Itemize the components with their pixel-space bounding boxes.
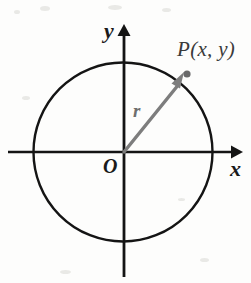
radius-label: r <box>133 100 140 122</box>
y-axis-label: y <box>104 18 114 44</box>
x-axis-label: x <box>230 156 241 182</box>
origin-label: O <box>103 155 117 178</box>
point-p-marker <box>183 70 190 77</box>
point-p-label: P(x, y) <box>177 37 235 62</box>
circle-diagram-figure: y x O r P(x, y) <box>0 0 251 283</box>
y-axis-arrowhead <box>118 24 131 36</box>
